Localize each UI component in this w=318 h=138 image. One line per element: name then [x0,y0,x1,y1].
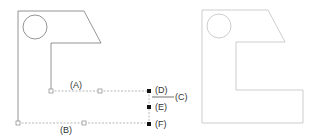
handle-a-mid[interactable] [98,89,102,93]
open-handles [16,89,102,125]
handle-b-mid[interactable] [82,121,86,125]
diagram-canvas: (A) (B) (C) (D) (E) (F) [0,0,318,138]
dimension-lines [18,91,149,124]
right-profile-outline [202,10,303,123]
handle-f[interactable] [147,122,151,126]
label-b: (B) [60,125,72,135]
handle-d[interactable] [147,89,151,93]
left-circle [23,15,47,39]
handle-a-start[interactable] [49,89,53,93]
left-profile-outline [18,11,101,123]
label-f: (F) [155,119,167,129]
handle-e[interactable] [147,105,151,109]
label-c: (C) [175,92,188,102]
right-figure [202,10,303,123]
label-e: (E) [155,102,167,112]
label-d: (D) [155,85,168,95]
right-circle [207,14,231,38]
label-a: (A) [70,80,82,90]
handle-b-start[interactable] [16,121,20,125]
left-figure [18,11,101,123]
